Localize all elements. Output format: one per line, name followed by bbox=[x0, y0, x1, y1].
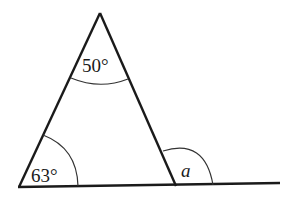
left-side bbox=[19, 13, 100, 187]
right-side bbox=[100, 13, 176, 186]
apex-angle-arc bbox=[71, 78, 128, 84]
bottom-left-angle-label: 63° bbox=[31, 165, 58, 186]
apex-angle-label: 50° bbox=[82, 55, 109, 76]
triangle-diagram: 50° 63° a bbox=[0, 0, 295, 198]
exterior-angle-label: a bbox=[181, 160, 191, 181]
